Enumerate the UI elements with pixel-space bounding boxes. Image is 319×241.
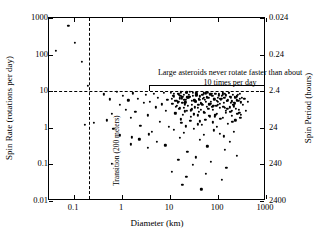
- data-point: [103, 93, 105, 95]
- y-tick-label: 100: [35, 49, 48, 58]
- data-point: [138, 138, 140, 140]
- data-point: [204, 119, 206, 121]
- data-point: [198, 98, 200, 100]
- data-point: [171, 102, 173, 104]
- data-point: [163, 92, 165, 94]
- data-point: [194, 101, 196, 103]
- y2-tick-label: 2.4: [269, 86, 280, 95]
- data-point: [203, 92, 205, 94]
- y2-tick-label: 240: [269, 159, 282, 168]
- data-point: [229, 106, 231, 108]
- data-point: [221, 179, 223, 181]
- data-point: [205, 101, 207, 103]
- data-point: [164, 110, 166, 112]
- data-point: [177, 158, 179, 160]
- data-point: [231, 121, 233, 123]
- y2-tick-label: 24: [269, 122, 278, 131]
- x-tick-top: [74, 18, 75, 22]
- data-point: [198, 111, 200, 113]
- data-point: [186, 151, 188, 153]
- y2-tick-label: 0.24: [269, 49, 284, 58]
- data-point: [189, 120, 191, 122]
- data-point: [197, 103, 199, 105]
- data-point: [218, 103, 220, 105]
- data-point: [125, 109, 127, 111]
- data-point: [173, 100, 175, 102]
- data-point: [210, 100, 212, 102]
- data-point: [81, 61, 83, 63]
- data-point: [187, 105, 189, 107]
- data-point: [231, 114, 233, 116]
- data-point: [142, 102, 144, 104]
- data-point: [155, 106, 157, 108]
- y-axis-title: Spin Rate (rotations per day): [4, 56, 14, 160]
- data-point: [243, 98, 245, 100]
- data-point: [197, 114, 199, 116]
- data-point: [216, 126, 218, 128]
- data-point: [220, 99, 222, 101]
- data-point: [119, 104, 121, 106]
- data-point: [201, 124, 203, 126]
- data-point: [131, 136, 133, 138]
- x-tick: [122, 195, 123, 199]
- data-point: [177, 102, 179, 104]
- data-point: [212, 109, 214, 111]
- y-tick-label: 0.01: [33, 196, 48, 205]
- data-point: [55, 50, 57, 52]
- y-tick: [49, 201, 53, 202]
- y2-tick: [260, 18, 264, 19]
- data-point: [191, 103, 193, 105]
- data-point: [157, 96, 159, 98]
- data-point: [207, 107, 209, 109]
- data-point: [179, 137, 181, 139]
- y-tick-label: 0.1: [37, 159, 48, 168]
- data-point: [242, 104, 244, 106]
- x-tick: [266, 195, 267, 199]
- data-point: [153, 93, 155, 95]
- data-point: [235, 108, 237, 110]
- data-point: [148, 133, 150, 135]
- data-point: [208, 103, 210, 105]
- data-point: [227, 122, 229, 124]
- y-tick: [49, 91, 53, 92]
- x-tick: [170, 195, 171, 199]
- data-point: [195, 94, 197, 96]
- data-point: [223, 135, 225, 137]
- data-point: [186, 110, 188, 112]
- data-point: [197, 123, 199, 125]
- data-point: [189, 116, 191, 118]
- data-point: [129, 116, 131, 118]
- asteroid-spin-rate-figure: Large asteroids never rotate faster than…: [0, 0, 319, 241]
- x-tick-label: 1: [119, 203, 123, 212]
- data-point: [215, 105, 217, 107]
- data-point: [196, 107, 198, 109]
- data-point: [223, 102, 225, 104]
- data-point: [184, 125, 186, 127]
- data-point: [233, 130, 235, 132]
- data-point: [191, 100, 193, 102]
- data-point: [209, 161, 211, 163]
- data-point: [219, 118, 221, 120]
- data-point: [234, 119, 236, 121]
- x-tick-top: [170, 18, 171, 22]
- y-tick: [49, 18, 53, 19]
- data-point: [181, 183, 183, 185]
- data-point: [236, 154, 238, 156]
- data-point: [201, 104, 203, 106]
- plot-area: Large asteroids never rotate faster than…: [48, 17, 265, 200]
- data-point: [83, 124, 85, 126]
- data-point: [175, 112, 177, 114]
- data-point: [176, 104, 178, 106]
- data-point: [193, 127, 195, 129]
- data-point: [223, 96, 225, 98]
- data-point: [203, 134, 205, 136]
- data-point: [180, 118, 182, 120]
- x-tick-label: 0.1: [68, 203, 79, 212]
- data-point: [136, 97, 138, 99]
- data-point: [108, 98, 110, 100]
- data-point: [146, 114, 148, 116]
- data-point: [132, 92, 134, 94]
- y-tick: [49, 128, 53, 129]
- data-point: [67, 25, 69, 27]
- spin-barrier-reference-line: [49, 91, 264, 92]
